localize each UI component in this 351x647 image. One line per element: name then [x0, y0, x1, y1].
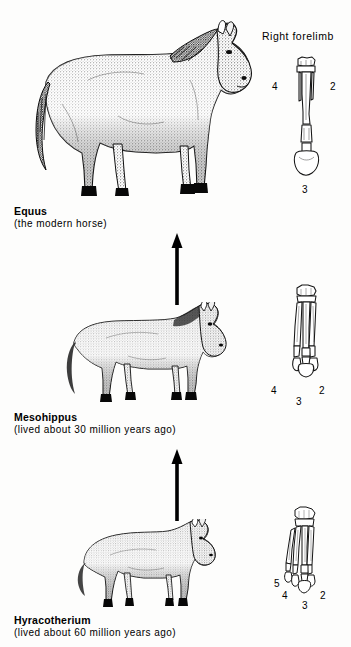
right-forelimb-panel-title: Right forelimb [262, 30, 334, 42]
stage-name-equus: Equus [14, 205, 47, 217]
digit-label-equus-3: 3 [302, 185, 308, 195]
stage-subtitle-hyracotherium: (lived about 60 million years ago) [14, 627, 176, 639]
digit-label-hyracotherium-5: 5 [274, 579, 280, 589]
stage-subtitle-mesohippus: (lived about 30 million years ago) [14, 424, 176, 436]
digit-label-mesohippus-3: 3 [296, 397, 302, 407]
stage-name-hyracotherium: Hyracotherium [14, 614, 91, 626]
digit-label-mesohippus-2: 2 [319, 386, 325, 396]
horse-evolution-figure: Right forelimb [0, 0, 351, 647]
digit-label-hyracotherium-2: 2 [320, 591, 326, 601]
stage-name-mesohippus: Mesohippus [14, 411, 77, 423]
horse-hyracotherium-illustration [72, 519, 230, 611]
horse-equus-illustration [18, 20, 262, 208]
forelimb-bones-equus [285, 56, 327, 184]
digit-label-equus-2: 2 [330, 82, 336, 92]
arrow-mesohippus-to-equus [170, 233, 184, 305]
arrow-hyracotherium-to-mesohippus [170, 449, 184, 521]
digit-label-equus-4: 4 [272, 82, 278, 92]
forelimb-bones-mesohippus [282, 284, 330, 394]
digit-label-hyracotherium-4: 4 [282, 591, 288, 601]
stage-subtitle-equus: (the modern horse) [14, 218, 107, 230]
horse-mesohippus-illustration [62, 302, 240, 406]
digit-label-hyracotherium-3: 3 [302, 601, 308, 611]
digit-label-mesohippus-4: 4 [271, 386, 277, 396]
